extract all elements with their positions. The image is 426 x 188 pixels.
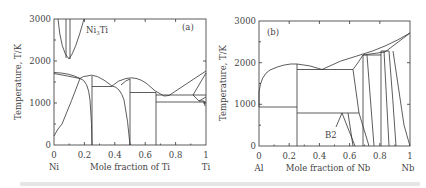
xlabel-b: Mole fraction of Nb xyxy=(286,163,371,173)
annotation-ni3ti: Ni3Ti xyxy=(86,25,108,36)
plot-a-labels: (a) Ni3Ti 0 1000 2000 3000 0 0.2 0.4 0.6… xyxy=(13,14,210,172)
ytick-a-1000: 1000 xyxy=(29,98,51,108)
end-label-nb: Nb xyxy=(402,163,415,173)
plot-b xyxy=(259,21,410,146)
ytick-b-0: 0 xyxy=(251,141,256,151)
end-label-al: Al xyxy=(254,163,264,173)
xtick-a-0: 0 xyxy=(51,150,56,160)
end-label-ni: Ni xyxy=(49,162,59,172)
plot-b-xticks xyxy=(274,21,395,146)
xtick-b-0.8: 0.8 xyxy=(373,151,387,161)
xlabel-a: Mole fraction of Ti xyxy=(90,162,170,172)
end-label-ti: Ti xyxy=(202,162,211,172)
plot-b-frame xyxy=(259,21,410,146)
xtick-a-0.2: 0.2 xyxy=(78,150,92,160)
xtick-b-0: 0 xyxy=(256,151,261,161)
ytick-b-2000: 2000 xyxy=(234,58,256,68)
xtick-b-0.4: 0.4 xyxy=(313,151,327,161)
ylabel-a: Temperature, T/K xyxy=(13,43,23,120)
plot-a-miscibility-gap xyxy=(58,19,84,59)
caption-cutoff xyxy=(20,182,420,186)
ytick-a-3000: 3000 xyxy=(29,14,51,24)
xtick-b-0.6: 0.6 xyxy=(343,151,357,161)
ylabel-b: Temperature, T/K xyxy=(218,44,228,121)
ytick-b-3000: 3000 xyxy=(234,16,256,26)
ytick-a-2000: 2000 xyxy=(29,56,51,66)
xtick-a-0.6: 0.6 xyxy=(138,150,152,160)
xtick-b-1: 1 xyxy=(407,151,412,161)
plot-a xyxy=(54,19,206,145)
plot-b-labels: (b) B2 0 1000 2000 3000 0 0.2 0.4 0.6 0.… xyxy=(218,16,415,173)
ytick-b-1000: 1000 xyxy=(234,99,256,109)
xtick-a-0.8: 0.8 xyxy=(169,150,183,160)
xtick-b-0.2: 0.2 xyxy=(282,151,296,161)
panel-label-a: (a) xyxy=(182,22,194,32)
xtick-a-1: 1 xyxy=(203,150,208,160)
xtick-a-0.4: 0.4 xyxy=(108,150,122,160)
ytick-a-0: 0 xyxy=(46,140,51,150)
phase-diagrams: (a) Ni3Ti 0 1000 2000 3000 0 0.2 0.4 0.6… xyxy=(0,0,426,188)
panel-label-b: (b) xyxy=(267,27,279,37)
annotation-b2: B2 xyxy=(325,130,337,140)
